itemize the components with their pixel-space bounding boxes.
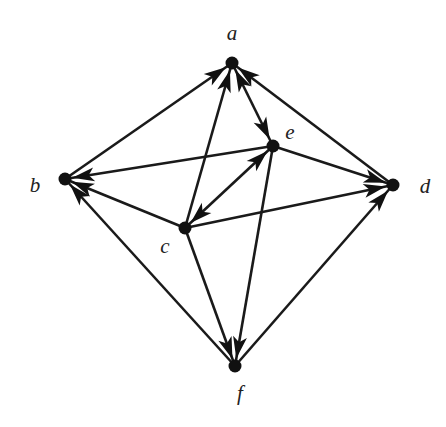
node-label-f: f — [237, 381, 246, 405]
node-label-e: e — [285, 120, 294, 144]
node-c — [179, 222, 192, 235]
directed-graph: abcdef — [0, 0, 446, 427]
node-label-c: c — [160, 234, 170, 258]
edges-layer — [65, 63, 393, 366]
edge-a-b — [65, 63, 232, 179]
edge-b-f — [65, 179, 235, 366]
node-b — [59, 173, 72, 186]
node-label-b: b — [30, 173, 41, 197]
edge-e-f — [235, 146, 273, 366]
node-label-d: d — [420, 174, 431, 198]
node-a — [226, 57, 239, 70]
node-label-a: a — [227, 21, 238, 45]
node-d — [387, 179, 400, 192]
arrowhead-icon — [254, 116, 270, 139]
node-f — [229, 360, 242, 373]
nodes-layer — [59, 57, 400, 373]
node-e — [267, 140, 280, 153]
edge-a-c — [185, 63, 232, 228]
